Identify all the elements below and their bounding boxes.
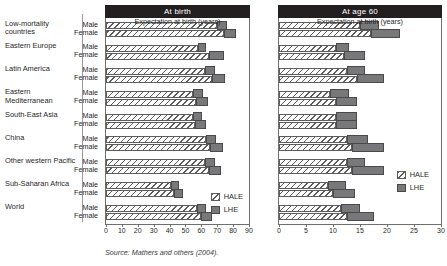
bar-lhe bbox=[224, 29, 237, 38]
sex-label-female: Female bbox=[57, 189, 98, 197]
bar-hale bbox=[279, 144, 352, 151]
bar-hale bbox=[106, 159, 205, 166]
bar-hale bbox=[106, 114, 193, 121]
bar-lhe bbox=[196, 97, 209, 106]
legend-item-hale: HALE bbox=[211, 192, 243, 202]
bar-row-female bbox=[106, 144, 249, 151]
bar-lhe bbox=[195, 120, 206, 129]
bar-lhe bbox=[174, 189, 183, 198]
bar-row-female bbox=[106, 76, 249, 83]
x-tick-label: 5 bbox=[304, 227, 308, 235]
sex-label-female: Female bbox=[57, 143, 98, 151]
bar-row-female bbox=[106, 167, 249, 174]
bar-hale bbox=[279, 91, 330, 98]
bar-row-female bbox=[106, 122, 249, 129]
bar-hale bbox=[106, 122, 195, 129]
bar-lhe bbox=[210, 143, 223, 152]
source-note: Source: Mathers and others (2004). bbox=[105, 248, 218, 257]
bar-hale bbox=[279, 190, 333, 197]
legend-at-age-60: HALELHE bbox=[397, 170, 429, 196]
plot-area-at-age-60: HALELHE bbox=[278, 18, 442, 225]
x-tick-label: 30 bbox=[437, 227, 445, 235]
sex-label-female: Female bbox=[57, 212, 98, 220]
x-tick-label: 15 bbox=[356, 227, 364, 235]
lhe-swatch-icon bbox=[397, 184, 406, 192]
bar-hale bbox=[106, 68, 205, 75]
bar-hale bbox=[279, 167, 352, 174]
bar-hale bbox=[106, 213, 201, 220]
bar-row-female bbox=[279, 53, 441, 60]
bar-lhe bbox=[209, 166, 221, 175]
legend-at-birth: HALELHE bbox=[211, 192, 243, 218]
bar-lhe bbox=[198, 43, 206, 52]
legend-item-lhe: LHE bbox=[211, 205, 243, 215]
bar-row-female bbox=[279, 30, 441, 37]
legend-item-hale: HALE bbox=[397, 170, 429, 180]
bar-row-female bbox=[279, 99, 441, 106]
bar-hale bbox=[279, 76, 357, 83]
x-tick-label: 0 bbox=[104, 227, 108, 235]
bar-lhe bbox=[212, 74, 226, 83]
bar-row-male bbox=[106, 136, 249, 143]
bar-hale bbox=[279, 182, 328, 189]
x-tick-label: 90 bbox=[245, 227, 253, 235]
x-axis-title-at-age-60: Expectation at birth (years) bbox=[278, 17, 442, 26]
bar-row-male bbox=[106, 159, 249, 166]
bar-hale bbox=[106, 144, 210, 151]
bar-hale bbox=[279, 122, 336, 129]
bar-hale bbox=[106, 136, 206, 143]
x-tick-label: 70 bbox=[213, 227, 221, 235]
bar-row-male bbox=[106, 45, 249, 52]
x-tick-label: 10 bbox=[118, 227, 126, 235]
x-tick-label: 20 bbox=[134, 227, 142, 235]
bar-hale bbox=[106, 190, 174, 197]
bar-row-female bbox=[279, 122, 441, 129]
bar-hale bbox=[106, 99, 196, 106]
bar-hale bbox=[279, 99, 336, 106]
sex-label-female: Female bbox=[57, 120, 98, 128]
bar-hale bbox=[106, 167, 209, 174]
bar-lhe bbox=[347, 212, 374, 221]
row-label-column: Low-mortality countriesEastern EuropeLat… bbox=[0, 0, 101, 224]
legend-item-lhe: LHE bbox=[397, 183, 429, 193]
bar-row-female bbox=[279, 144, 441, 151]
bar-hale bbox=[106, 76, 212, 83]
bar-lhe bbox=[357, 74, 384, 83]
bar-hale bbox=[106, 205, 197, 212]
sex-label-female: Female bbox=[57, 166, 98, 174]
bar-hale bbox=[279, 213, 347, 220]
legend-label: LHE bbox=[410, 183, 424, 192]
sex-label-male: Male bbox=[57, 21, 98, 29]
bar-row-male bbox=[106, 114, 249, 121]
bar-hale bbox=[279, 205, 341, 212]
hale-swatch-icon bbox=[211, 193, 220, 201]
bar-hale bbox=[279, 68, 347, 75]
bar-lhe bbox=[333, 189, 355, 198]
lhe-swatch-icon bbox=[211, 206, 220, 214]
x-tick-label: 20 bbox=[383, 227, 391, 235]
bar-hale bbox=[106, 91, 193, 98]
hale-swatch-icon bbox=[397, 171, 406, 179]
bar-row-male bbox=[279, 91, 441, 98]
bar-lhe bbox=[336, 120, 358, 129]
bar-hale bbox=[106, 45, 198, 52]
bar-row-female bbox=[279, 213, 441, 220]
bar-hale bbox=[279, 136, 347, 143]
x-tick-label: 40 bbox=[166, 227, 174, 235]
bar-lhe bbox=[371, 29, 401, 38]
bar-row-male bbox=[106, 91, 249, 98]
bar-row-female bbox=[279, 76, 441, 83]
sex-label-female: Female bbox=[57, 74, 98, 82]
bar-hale bbox=[279, 114, 336, 121]
bar-lhe bbox=[209, 51, 223, 60]
sex-label-female: Female bbox=[57, 97, 98, 105]
bar-hale bbox=[279, 45, 336, 52]
legend-label: HALE bbox=[410, 170, 429, 179]
x-tick-label: 0 bbox=[277, 227, 281, 235]
bar-hale bbox=[106, 182, 171, 189]
bar-hale bbox=[279, 53, 344, 60]
bar-hale bbox=[279, 159, 347, 166]
sex-label-list: MaleFemaleMaleFemaleMaleFemaleMaleFemale… bbox=[58, 0, 101, 224]
bar-row-male bbox=[106, 68, 249, 75]
x-tick-label: 30 bbox=[150, 227, 158, 235]
